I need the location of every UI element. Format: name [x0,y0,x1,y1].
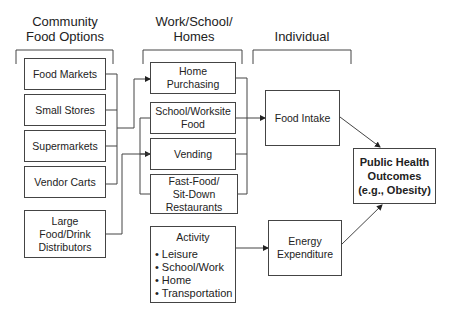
box-label: Large [52,215,79,228]
box-label: School/Worksite [155,105,231,118]
fast-food-restaurants-box: Fast-Food/ Sit-Down Restaurants [150,174,238,214]
box-label: Sit-Down [173,188,216,201]
activity-box: Activity Leisure School/Work Home Transp… [150,226,236,303]
food-markets-box: Food Markets [24,58,106,90]
activity-list: Leisure School/Work Home Transportation [151,248,232,300]
box-label: Food Markets [33,68,97,81]
box-label: Outcomes [368,169,422,183]
supermarkets-box: Supermarkets [24,130,106,162]
community-food-options-header: Community Food Options [10,14,120,44]
header-line: Community [10,14,120,29]
activity-item: Leisure [155,248,232,261]
work-school-homes-header: Work/School/ Homes [142,14,246,44]
individual-bracket [253,50,351,64]
vendor-carts-box: Vendor Carts [24,166,106,198]
header-line: Homes [142,29,246,44]
box-label: Food Intake [275,112,330,125]
small-stores-box: Small Stores [24,94,106,126]
box-label: Distributors [38,241,91,254]
vending-box: Vending [150,138,236,170]
box-label: Vending [174,148,212,161]
box-label: Fast-Food/ [169,175,220,188]
box-label: Supermarkets [32,140,97,153]
box-label: (e.g., Obesity) [358,183,431,197]
individual-header: Individual [253,29,351,44]
box-label: Home [179,65,207,78]
header-line: Work/School/ [142,14,246,29]
public-health-outcomes-box: Public Health Outcomes (e.g., Obesity) [353,148,436,204]
box-label: Restaurants [166,201,223,214]
activity-item: Transportation [155,287,232,300]
food-intake-box: Food Intake [265,90,340,146]
box-label: Expenditure [277,248,333,261]
large-distributors-box: Large Food/Drink Distributors [24,210,106,258]
school-worksite-food-box: School/Worksite Food [150,102,236,134]
box-label: Public Health [360,155,430,169]
activity-item: Home [155,274,232,287]
box-label: Vendor Carts [34,176,95,189]
box-label: Food/Drink [39,228,90,241]
home-purchasing-box: Home Purchasing [150,62,236,94]
energy-expenditure-box: Energy Expenditure [268,220,342,276]
activity-title: Activity [176,231,209,244]
box-label: Small Stores [35,104,95,117]
header-line: Food Options [10,29,120,44]
box-label: Purchasing [167,78,220,91]
box-label: Energy [288,235,321,248]
activity-item: School/Work [155,261,232,274]
box-label: Food [181,118,205,131]
